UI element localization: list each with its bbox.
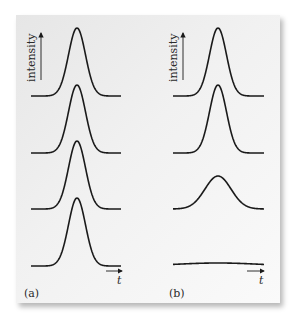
panel-b: intensity t (b): [167, 28, 264, 300]
panel-a: intensity t (a): [24, 28, 122, 300]
intensity-axis-label-a: intensity: [25, 33, 38, 82]
panel-label-a: (a): [24, 287, 39, 300]
intensity-axis-label-b: intensity: [167, 33, 180, 82]
panel-label-b: (b): [169, 287, 185, 300]
time-axis-label-b: t: [259, 274, 264, 287]
figure-canvas: intensity t (a) intensity t (b): [0, 0, 298, 319]
pulse-traces-a: [31, 28, 121, 266]
pulse-traces-b: [173, 28, 264, 264]
pulse-trace: [173, 263, 264, 264]
time-axis-label-a: t: [117, 274, 122, 287]
pulse-trace: [173, 176, 264, 209]
